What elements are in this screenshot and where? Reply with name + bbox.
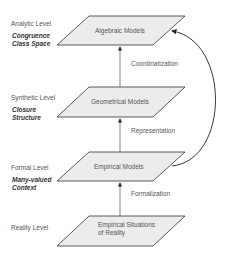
- representation-label: Representation: [131, 127, 175, 134]
- analytic-level-sub: Congruence Class Space: [12, 32, 62, 48]
- reality-level-label: Reality Level: [11, 224, 48, 231]
- empirical-models-text: Empirical Models: [94, 163, 144, 171]
- formal-level-label: Formal Level: [11, 164, 49, 171]
- algebraic-models-text: Algebraic Models: [95, 27, 145, 35]
- analytic-level-label: Analytic Level: [11, 20, 51, 27]
- formal-level-sub: Many-valued Context: [12, 176, 62, 192]
- geometrical-models-text: Geometrical Models: [91, 98, 149, 106]
- diagram: Analytic Level Congruence Class Space Sy…: [0, 0, 226, 259]
- curved-arrow: [172, 31, 216, 166]
- coordinatization-label: Coordinatization: [131, 60, 178, 67]
- synthetic-level-label: Synthetic Level: [11, 94, 55, 101]
- formalization-label: Formalization: [131, 190, 170, 197]
- synthetic-level-sub: Closure Structure: [12, 106, 62, 122]
- reality-text: Empirical Situations of Reality: [98, 221, 158, 237]
